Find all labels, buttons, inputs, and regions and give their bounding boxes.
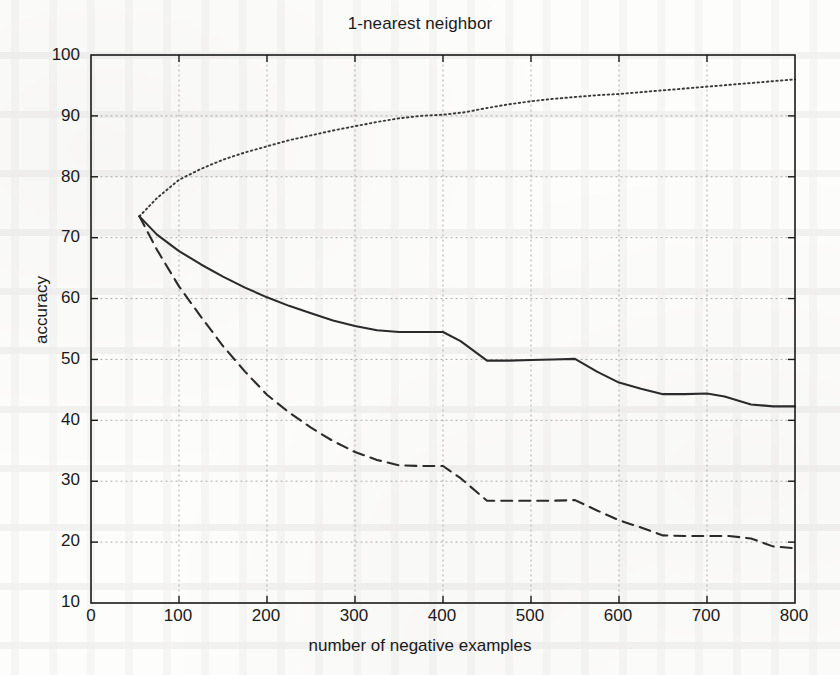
chart-figure: 1-nearest neighbor number of negative ex… <box>0 0 840 675</box>
page-canvas: 1-nearest neighbor number of negative ex… <box>0 0 840 675</box>
series-line-solid-middle <box>139 216 795 406</box>
data-series <box>139 79 795 548</box>
grid-lines <box>91 55 795 603</box>
series-line-dashed-lower <box>139 216 795 548</box>
series-line-dotted-upper <box>139 79 795 216</box>
plot-area <box>0 0 840 675</box>
